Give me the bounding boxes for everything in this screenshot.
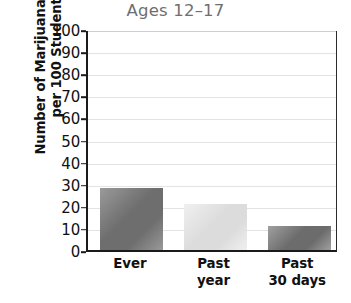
x-tick-label-line-1: Past — [250, 256, 345, 273]
x-tick-label-ever: Ever — [82, 256, 177, 273]
y-tick-label-0: 0 — [71, 243, 80, 261]
y-tick-label-40: 40 — [61, 155, 80, 173]
y-axis-tick-labels: 0102030405060708090100 — [0, 31, 84, 252]
x-tick-label-line-2: year — [166, 273, 261, 290]
x-tick-label-line-1: Past — [166, 256, 261, 273]
gridline-70 — [88, 97, 336, 98]
y-tick-label-90: 90 — [61, 44, 80, 62]
gridline-60 — [88, 119, 336, 120]
y-tick-label-10: 10 — [61, 221, 80, 239]
x-tick-label-past-30-days: Past30 days — [250, 256, 345, 289]
y-tick-label-50: 50 — [61, 133, 80, 151]
x-tick-label-past-year: Pastyear — [166, 256, 261, 289]
x-tick-label-line-2: 30 days — [250, 273, 345, 290]
y-tick-label-60: 60 — [61, 110, 80, 128]
y-tick-label-100: 100 — [52, 22, 80, 40]
bar-ever — [100, 188, 163, 250]
chart-title: Ages 12–17 — [0, 1, 351, 20]
y-tick-label-70: 70 — [61, 88, 80, 106]
bar-past-year — [184, 204, 247, 250]
x-tick-label-line-1: Ever — [82, 256, 177, 273]
bar-past-30-days — [268, 226, 331, 250]
gridline-90 — [88, 53, 336, 54]
gridline-50 — [88, 142, 336, 143]
gridline-40 — [88, 164, 336, 165]
y-tick-label-30: 30 — [61, 177, 80, 195]
gridline-30 — [88, 186, 336, 187]
chart-figure: Ages 12–17 Number of Marijuana Users per… — [0, 0, 351, 303]
gridline-80 — [88, 75, 336, 76]
y-tick-label-80: 80 — [61, 66, 80, 84]
gridline-100 — [88, 31, 336, 32]
y-tick-label-20: 20 — [61, 199, 80, 217]
plot-area — [86, 31, 337, 252]
x-axis-tick-labels: EverPastyearPast30 days — [86, 256, 337, 303]
